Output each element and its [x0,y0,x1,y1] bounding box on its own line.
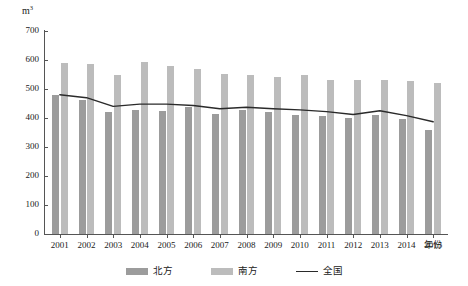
x-axis-tick-label: 2007 [211,240,229,251]
y-axis-tick-mark [44,234,48,235]
x-axis-tick-label: 2014 [398,240,416,251]
x-axis-tick-mark [113,234,114,238]
x-axis-tick-mark [327,234,328,238]
x-axis-tick-label: 2006 [184,240,202,251]
x-axis-tick-mark [220,234,221,238]
x-axis-tick-label: 2009 [264,240,282,251]
y-axis-tick-label: 300 [26,141,40,152]
y-axis-tick-label: 700 [26,25,40,36]
x-axis-tick-mark [247,234,248,238]
x-axis-tick-label: 2001 [51,240,69,251]
x-axis-tick-mark [60,234,61,238]
legend-line-marker [296,271,318,272]
chart-legend: 北方南方全国 [0,262,468,280]
legend-label: 北方 [153,265,173,277]
x-axis-tick-mark [433,234,434,238]
x-axis-tick-label: 2010 [291,240,309,251]
x-axis-tick-mark [87,234,88,238]
x-axis-tick-label: 2013 [371,240,389,251]
x-axis-tick-mark [407,234,408,238]
x-axis-tick-mark [140,234,141,238]
x-axis-tick-mark [167,234,168,238]
y-axis-tick-label: 500 [26,83,40,94]
x-axis-tick-label: 2008 [238,240,256,251]
y-axis-tick-label: 400 [26,112,40,123]
x-axis-tick-label: 2002 [78,240,96,251]
y-axis-tick-label: 100 [26,199,40,210]
x-axis-tick-label: 2004 [131,240,149,251]
y-axis-tick-label: 0 [35,228,40,239]
y-axis-unit-label: m3 [22,2,33,16]
x-axis-tick-mark [273,234,274,238]
x-axis-tick-label: 2011 [318,240,336,251]
legend-item[interactable]: 北方 [126,265,173,277]
line-series [60,95,433,122]
x-axis-tick-label: 2005 [158,240,176,251]
x-axis-tick-mark [300,234,301,238]
legend-label: 南方 [238,265,258,277]
plot-area [45,31,445,234]
y-axis-unit-superscript: 3 [30,4,33,11]
legend-swatch-marker [211,268,233,275]
x-axis-tick-label: 2012 [344,240,362,251]
x-axis-title: 年份 [424,240,442,251]
x-axis-tick-mark [380,234,381,238]
chart-container: m3 0100200300400500600700 20012002200320… [0,0,468,286]
y-axis-tick-label: 200 [26,170,40,181]
x-axis-tick-mark [193,234,194,238]
x-axis-tick-mark [353,234,354,238]
y-axis-tick-label: 600 [26,54,40,65]
legend-label: 全国 [323,265,343,277]
legend-item[interactable]: 全国 [296,265,343,277]
y-axis-unit-text: m [22,5,30,16]
legend-item[interactable]: 南方 [211,265,258,277]
legend-swatch-marker [126,268,148,275]
line-series-layer [45,31,445,234]
x-axis-tick-label: 2003 [104,240,122,251]
